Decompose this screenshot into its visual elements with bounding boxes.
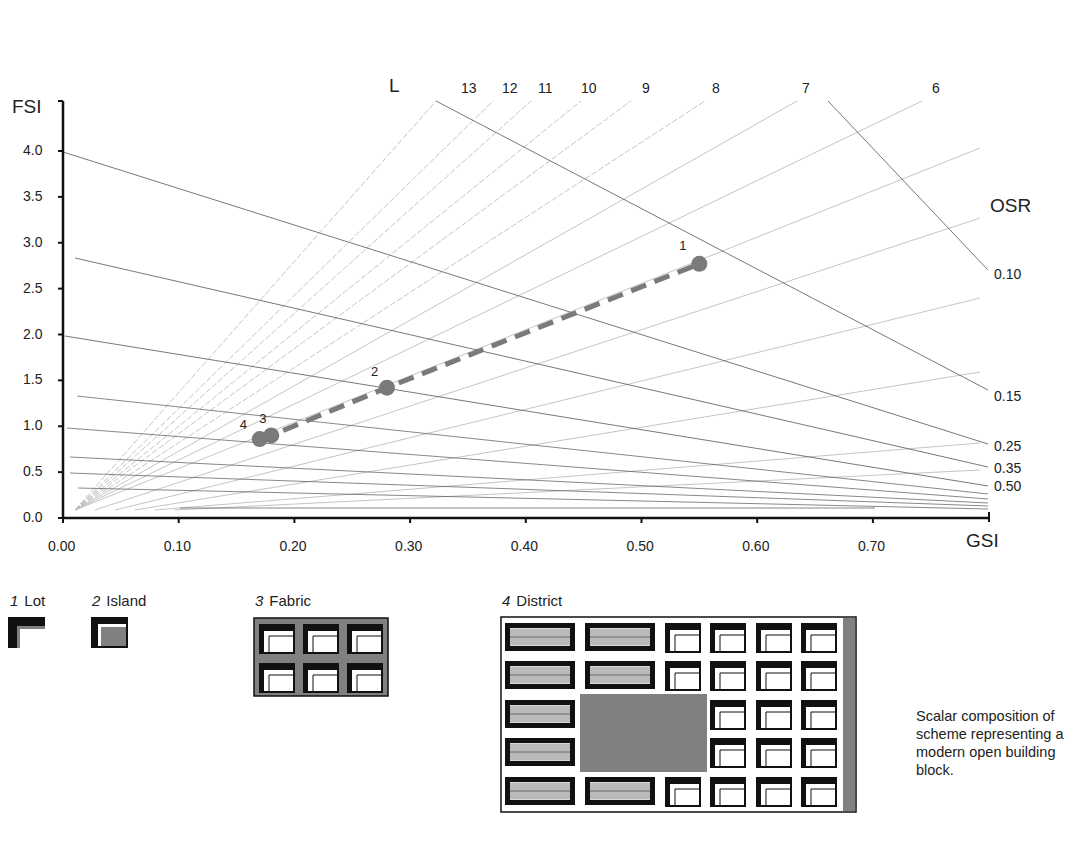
x-tick-0.00: 0.00 (48, 538, 75, 554)
legend-number: 3 (255, 592, 263, 609)
x-tick-0.10: 0.10 (164, 538, 191, 554)
legend-fabric: 3Fabric (255, 592, 311, 609)
l-label-12: 12 (502, 80, 518, 96)
legend-island: 2Island (92, 592, 146, 609)
point-label-1: 1 (679, 238, 686, 253)
l-label-11: 11 (538, 80, 553, 96)
legend-label: District (516, 592, 562, 609)
l-label-6: 6 (932, 80, 940, 96)
legend-label: Fabric (269, 592, 311, 609)
lot-block-icon (8, 617, 48, 651)
y-tick-2.0: 2.0 (23, 326, 42, 342)
legend-number: 2 (92, 592, 100, 609)
x-tick-0.30: 0.30 (395, 538, 422, 554)
x-tick-0.40: 0.40 (511, 538, 538, 554)
x-axis-title: GSI (966, 530, 999, 552)
osr-label-0.25: 0.25 (994, 438, 1021, 454)
legend-label: Lot (24, 592, 45, 609)
x-tick-0.20: 0.20 (279, 538, 306, 554)
osr-series-title: OSR (990, 195, 1031, 217)
point-label-2: 2 (371, 364, 378, 379)
osr-label-0.10: 0.10 (994, 266, 1021, 282)
y-axis-title: FSI (12, 96, 42, 118)
y-tick-2.5: 2.5 (23, 280, 42, 296)
l-label-8: 8 (712, 80, 720, 96)
l-series-title: L (389, 75, 400, 97)
l-label-10: 10 (581, 80, 597, 96)
y-tick-1.0: 1.0 (23, 417, 42, 433)
osr-label-0.35: 0.35 (994, 460, 1021, 476)
osr-label-0.50: 0.50 (994, 478, 1021, 494)
figure-caption: Scalar composition of scheme representin… (916, 707, 1073, 779)
x-tick-0.60: 0.60 (742, 538, 769, 554)
l-label-13: 13 (461, 80, 477, 96)
point-label-4: 4 (240, 417, 247, 432)
legend-number: 4 (502, 592, 510, 609)
legend-label: Island (106, 592, 146, 609)
x-tick-0.70: 0.70 (858, 538, 885, 554)
y-tick-0.0: 0.0 (23, 509, 42, 525)
l-label-7: 7 (802, 80, 810, 96)
legend-number: 1 (10, 592, 18, 609)
legend-district: 4District (502, 592, 562, 609)
y-tick-1.5: 1.5 (23, 371, 42, 387)
legend-lot: 1Lot (10, 592, 45, 609)
y-tick-4.0: 4.0 (23, 142, 42, 158)
osr-label-0.15: 0.15 (994, 388, 1021, 404)
l-label-9: 9 (642, 80, 650, 96)
x-tick-0.50: 0.50 (627, 538, 654, 554)
y-tick-3.5: 3.5 (23, 188, 42, 204)
y-tick-3.0: 3.0 (23, 234, 42, 250)
island-block-icon (91, 617, 131, 651)
y-tick-0.5: 0.5 (23, 463, 42, 479)
point-label-3: 3 (259, 411, 266, 426)
district-block-icon (500, 616, 860, 814)
fabric-block-icon (253, 617, 391, 699)
